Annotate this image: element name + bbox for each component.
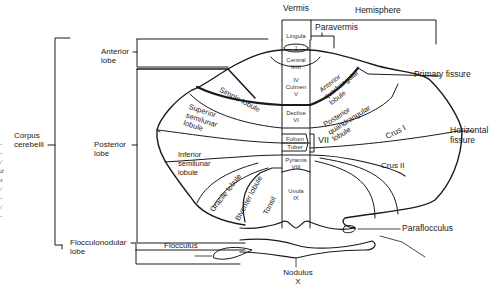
corpus-cerebelli-bracket xyxy=(55,38,70,245)
paraflocculus-label: Paraflocculus xyxy=(402,224,453,234)
cerebellum-diagram: - - / d s / - / - Vermis Hemisphere Para… xyxy=(0,0,500,296)
lingula-label: Lingula xyxy=(284,33,308,40)
lobule-i-label: I xyxy=(284,45,308,52)
paravermis-bracket xyxy=(311,36,334,48)
hemisphere-header: Hemisphere xyxy=(355,6,401,16)
crus-ii-label: Crus II xyxy=(381,161,405,170)
nodulus-label: Nodulus X xyxy=(280,268,316,286)
central-lobule-label: Central II/III xyxy=(284,57,308,71)
posterior-lobe-label: Posterior lobe xyxy=(94,140,126,158)
paravermis-header: Paravermis xyxy=(315,23,358,33)
horizontal-fissure-label: Horizontal fissure xyxy=(450,126,488,145)
flocculonodular-lobe-label: Flocculonodular lobe xyxy=(70,238,126,256)
cropped-edge-text: - - / d s / - / - xyxy=(0,140,4,221)
anterior-lobe-bracket xyxy=(137,39,228,67)
tuber-label: Tuber xyxy=(284,144,306,151)
folium-label: Folium xyxy=(284,136,306,143)
flocculonodular-bracket xyxy=(136,250,240,264)
vermis-header: Vermis xyxy=(283,4,309,14)
culmen-label: IV Culmen V xyxy=(284,77,308,98)
inferior-semilunar-label: Inferior semilunar lobule xyxy=(178,150,211,177)
flocculus-label: Flocculus xyxy=(164,241,198,250)
declive-label: Declive VI xyxy=(284,110,308,124)
pyramis-label: Pyramis VIII xyxy=(284,157,308,171)
anterior-lobe-label: Anterior lobe xyxy=(101,47,129,65)
corpus-cerebelli-label: Corpus cerebelli xyxy=(14,131,44,149)
primary-fissure-label: Primary fissure xyxy=(414,70,471,80)
uvula-label: Uvula IX xyxy=(284,188,308,202)
lobule-vii-label: VII xyxy=(318,136,329,145)
